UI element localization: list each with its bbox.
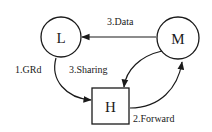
edge-label-forward: 2.Forward (133, 113, 174, 124)
node-l: L (41, 17, 81, 57)
edge-label-grd: 1.GRd (15, 64, 41, 75)
node-m: M (157, 17, 199, 59)
diagram-canvas: L M H 1.GRd 2.Forward 3.Data 3.Sharing (0, 0, 212, 132)
node-m-label: M (171, 31, 184, 47)
node-l-label: L (56, 30, 65, 46)
edge-label-data: 3.Data (107, 16, 134, 27)
node-h: H (92, 88, 129, 124)
edge-m-to-h (124, 51, 162, 87)
node-h-label: H (105, 99, 116, 115)
edge-h-to-m (130, 62, 182, 108)
edge-label-sharing: 3.Sharing (69, 64, 108, 75)
